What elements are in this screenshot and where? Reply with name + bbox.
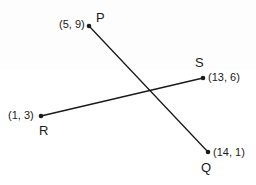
point-marker-r (39, 114, 44, 119)
point-coordinate-r: (1, 3) (8, 110, 34, 121)
point-label-r: R (39, 124, 48, 137)
segment-rs (41, 78, 203, 116)
point-marker-p (87, 24, 92, 29)
point-label-q: Q (201, 161, 211, 174)
point-label-p: P (96, 11, 105, 24)
point-marker-s (201, 76, 206, 81)
point-coordinate-q: (14, 1) (213, 147, 245, 158)
point-coordinate-p: (5, 9) (59, 19, 85, 30)
point-label-s: S (195, 56, 204, 69)
point-marker-q (206, 150, 211, 155)
geometry-diagram-canvas: P (5, 9) S (13, 6) R (1, 3) Q (14, 1) (0, 0, 256, 185)
point-coordinate-s: (13, 6) (208, 72, 240, 83)
segment-pq (89, 26, 208, 152)
